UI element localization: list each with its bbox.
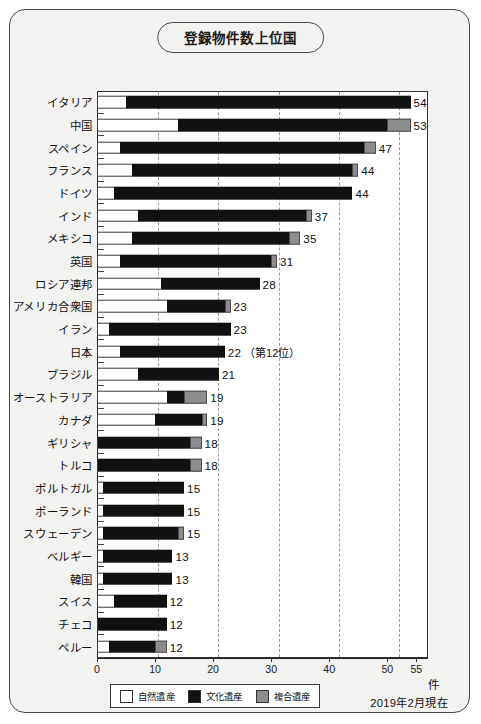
bar-segment-mixed xyxy=(190,436,202,449)
bar-segment-mixed xyxy=(202,414,208,427)
bar-segment-mixed xyxy=(184,391,207,404)
bar-segment-cultural xyxy=(167,300,225,313)
bar-row-label: イタリア xyxy=(47,94,93,110)
bar-segment-mixed xyxy=(352,164,358,177)
table-row: ペルー12 xyxy=(0,635,481,658)
bar-segment-cultural xyxy=(103,504,184,517)
bar-value-label: 12 xyxy=(170,640,183,653)
bar-segment-mixed xyxy=(225,300,231,313)
bar-segment-cultural xyxy=(114,595,166,608)
stacked-bar xyxy=(97,232,300,245)
bar-segment-cultural xyxy=(120,255,271,268)
legend-label: 文化遺産 xyxy=(206,689,243,703)
bar-value-label: 21 xyxy=(222,368,235,381)
bar-row-label: ロシア連邦 xyxy=(35,276,93,292)
bar-row-label: スペイン xyxy=(48,140,93,156)
bar-segment-natural xyxy=(97,96,126,109)
bar-segment-natural xyxy=(97,346,120,359)
bar-value-label: 12 xyxy=(170,595,183,608)
bar-value-label: 12 xyxy=(170,617,183,630)
x-axis-tick-label: 0 xyxy=(94,663,100,675)
stacked-bar xyxy=(97,277,260,290)
bar-segment-mixed xyxy=(155,640,167,653)
bar-segment-natural xyxy=(97,300,167,313)
bar-segment-cultural xyxy=(103,572,173,585)
bar-segment-cultural xyxy=(132,164,353,177)
table-row: イラン23 xyxy=(0,318,481,341)
legend-label: 複合遺産 xyxy=(274,689,311,703)
x-axis-tick-label: 55 xyxy=(410,663,422,675)
bar-value-label: 19 xyxy=(210,391,223,404)
bar-value-label: 18 xyxy=(205,436,218,449)
bar-row-label: インド xyxy=(58,208,93,224)
legend-swatch-mixed-icon xyxy=(256,690,269,703)
table-row: オーストラリア19 xyxy=(0,386,481,409)
bar-segment-cultural xyxy=(103,550,173,563)
bar-row-label: ギリシャ xyxy=(47,435,93,451)
x-axis-tick-label: 40 xyxy=(323,663,335,675)
bar-value-label: 13 xyxy=(175,549,188,562)
bar-segment-mixed xyxy=(306,209,312,222)
bar-rows: イタリア54中国53スペイン47フランス44ドイツ44インド37メキシコ35英国… xyxy=(0,91,481,658)
bar-value-label: 19 xyxy=(210,413,223,426)
bar-value-label: 13 xyxy=(175,572,188,585)
bar-segment-natural xyxy=(97,187,114,200)
x-axis-tick xyxy=(97,658,98,662)
table-row: フランス44 xyxy=(0,159,481,182)
bar-row-label: アメリカ合衆国 xyxy=(13,298,93,314)
bar-segment-natural xyxy=(97,368,138,381)
bar-segment-cultural xyxy=(138,209,306,222)
bar-value-label: 22 （第12位） xyxy=(228,344,301,360)
bar-row-label: イラン xyxy=(58,321,93,337)
bar-row-label: スウェーデン xyxy=(23,525,93,541)
table-row: 日本22 （第12位） xyxy=(0,340,481,363)
table-row: スイス12 xyxy=(0,590,481,613)
bar-value-label: 53 xyxy=(414,119,427,132)
stacked-bar xyxy=(97,527,184,540)
x-axis-tick xyxy=(271,658,272,662)
stacked-bar xyxy=(97,346,225,359)
legend-swatch-natural-icon xyxy=(120,690,133,703)
bar-segment-cultural xyxy=(97,459,190,472)
bar-row-label: スイス xyxy=(58,593,93,609)
bar-value-label: 15 xyxy=(187,527,200,540)
bar-segment-cultural xyxy=(138,368,219,381)
bar-segment-cultural xyxy=(97,618,167,631)
table-row: ドイツ44 xyxy=(0,182,481,205)
unit-label: 件 xyxy=(428,676,439,692)
bar-value-label: 23 xyxy=(234,300,247,313)
bar-segment-cultural xyxy=(109,640,155,653)
table-row: ロシア連邦28 xyxy=(0,272,481,295)
bar-row-label: メキシコ xyxy=(47,230,93,246)
bar-segment-cultural xyxy=(97,436,190,449)
stacked-bar xyxy=(97,640,167,653)
table-row: スペイン47 xyxy=(0,136,481,159)
legend-item-natural: 自然遺産 xyxy=(120,689,175,703)
table-row: スウェーデン15 xyxy=(0,522,481,545)
bar-segment-mixed xyxy=(271,255,277,268)
bar-segment-mixed xyxy=(364,141,376,154)
bar-row-label: チェコ xyxy=(58,616,93,632)
bar-row-label: トルコ xyxy=(58,457,93,473)
table-row: 中国53 xyxy=(0,114,481,137)
page-title: 登録物件数上位国 xyxy=(157,22,325,53)
bar-row-label: ドイツ xyxy=(58,185,93,201)
bar-value-label: 54 xyxy=(414,96,427,109)
stacked-bar xyxy=(97,209,312,222)
stacked-bar xyxy=(97,504,184,517)
bar-segment-natural xyxy=(97,595,114,608)
bar-segment-natural xyxy=(97,232,132,245)
bar-segment-cultural xyxy=(103,482,184,495)
bar-segment-cultural xyxy=(132,232,289,245)
stacked-bar xyxy=(97,595,167,608)
bar-value-label: 15 xyxy=(187,504,200,517)
bar-segment-cultural xyxy=(120,346,225,359)
x-axis-tick-label: 30 xyxy=(265,663,277,675)
bar-value-label: 18 xyxy=(205,459,218,472)
stacked-bar xyxy=(97,96,411,109)
stacked-bar xyxy=(97,255,277,268)
table-row: ベルギー13 xyxy=(0,545,481,568)
bar-segment-natural xyxy=(97,209,138,222)
bar-row-label: 英国 xyxy=(70,253,93,269)
bar-segment-cultural xyxy=(167,391,184,404)
